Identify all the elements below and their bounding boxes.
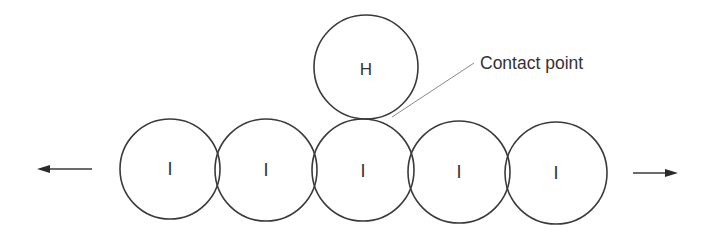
i-label-3: I [360,161,365,181]
i-circle-2: I [215,119,317,221]
left-arrow-icon [37,165,92,173]
i-circle-row: I I I I I [120,119,607,224]
right-arrow-icon [633,169,678,177]
contact-point-label: Contact point [480,53,583,73]
i-circle-1: I [120,119,220,219]
i-label-2: I [263,160,268,180]
i-label-4: I [456,162,461,182]
h-circle: H [314,15,418,119]
i-label-1: I [167,159,172,179]
contact-diagram: I I I I I H Contact point [0,0,709,239]
i-label-5: I [553,163,558,183]
i-circle-5: I [505,122,607,224]
h-label: H [360,60,372,79]
contact-point-leader-line [392,63,474,117]
i-circle-3: I [312,119,414,221]
i-circle-4: I [408,121,510,223]
